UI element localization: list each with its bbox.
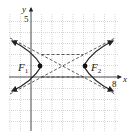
hyperbola-graph: y 5 x 8 F1 F2: [0, 0, 136, 137]
x-tick-label-8: 8: [112, 79, 117, 89]
focus-point-f2: [83, 64, 88, 69]
f2-label: F2: [90, 61, 102, 75]
focus-point-f1: [38, 64, 43, 69]
x-axis-label: x: [122, 74, 127, 84]
f1-label: F1: [17, 61, 29, 75]
hyperbola-left-branch: [12, 41, 42, 91]
hyperbola-right-branch: [84, 41, 114, 91]
y-tick-label-5: 5: [24, 14, 29, 24]
y-axis-label: y: [21, 4, 26, 14]
